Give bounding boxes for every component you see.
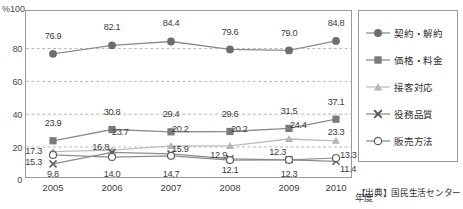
data-label-s1-2008: 79.6 <box>208 27 252 37</box>
x-tick-2008: 2008 <box>207 182 253 193</box>
data-label-s3-2005: 17.3 <box>8 146 42 156</box>
legend-item-ekimu-hinshitsu[interactable]: 役務品質 <box>359 100 457 127</box>
data-label-s3-2010: 23.3 <box>314 127 358 137</box>
data-label-s3-2008: 20.2 <box>231 124 271 134</box>
legend-label-ekimu-hinshitsu: 役務品質 <box>394 107 433 121</box>
legend-item-hanbai-houhou[interactable]: 販売方法 <box>359 127 457 154</box>
legend-item-kakaku-ryoukin[interactable]: 価格・料金 <box>359 46 457 73</box>
legend-label-hanbai-houhou: 販売方法 <box>394 134 433 148</box>
data-label-s2-2006: 30.8 <box>90 107 134 117</box>
legend-label-kakaku-ryoukin: 価格・料金 <box>394 53 443 67</box>
x-tick-2005: 2005 <box>30 182 76 193</box>
data-label-s2-2005: 23.9 <box>31 118 75 128</box>
legend: 契約・解約 価格・料金 接客対応 <box>358 10 458 162</box>
data-label-s1-2007: 84.4 <box>149 18 193 28</box>
x-tick-2009: 2009 <box>266 182 312 193</box>
filled-triangle-marker-icon <box>365 80 391 94</box>
x-tick-2010: 2010 <box>313 182 359 193</box>
data-label-s1-2010: 84.8 <box>314 18 358 28</box>
data-label-s5-2008: 12.1 <box>208 165 252 175</box>
data-label-s1-2005: 76.9 <box>31 31 75 41</box>
open-circle-marker-icon <box>365 134 391 148</box>
legend-label-keiyaku-kaiyaku: 契約・解約 <box>394 26 443 40</box>
data-label-s4-2008: 12.9 <box>187 150 227 160</box>
data-label-s3-2006: 23.7 <box>112 127 152 137</box>
x-tick-2006: 2006 <box>89 182 135 193</box>
data-label-s5-2006: 14.0 <box>90 169 134 179</box>
chart-root: %100 80 60 40 20 0 <box>0 0 463 209</box>
data-label-s1-2009: 79.0 <box>267 28 311 38</box>
data-label-s5-2005: 15.3 <box>8 157 42 167</box>
data-label-s5-2009: 12.3 <box>246 147 286 157</box>
source-note: 【出典】国民生活センター <box>357 186 461 198</box>
data-label-s3-2007: 20.2 <box>172 124 212 134</box>
data-label-s1-2006: 82.1 <box>90 22 134 32</box>
filled-square-marker-icon <box>365 53 391 67</box>
data-label-s4-2010: 11.4 <box>340 164 380 174</box>
data-label-s4-2005: 9.8 <box>31 169 75 179</box>
data-label-s2-2008: 29.6 <box>208 109 252 119</box>
data-label-s5-2007: 14.7 <box>149 169 193 179</box>
data-label-s2-2010: 37.1 <box>314 97 358 107</box>
series-line-keiyaku-kaiyaku <box>49 37 340 58</box>
data-label-s2-2007: 29.4 <box>149 109 193 119</box>
legend-item-sekkyaku-taiou[interactable]: 接客対応 <box>359 73 457 100</box>
filled-circle-marker-icon <box>365 26 391 40</box>
data-label-s4-2006: 16.8 <box>69 142 109 152</box>
legend-item-keiyaku-kaiyaku[interactable]: 契約・解約 <box>359 19 457 46</box>
legend-label-sekkyaku-taiou: 接客対応 <box>394 80 433 94</box>
data-label-s4-2009: 12.3 <box>267 169 311 179</box>
x-tick-2007: 2007 <box>148 182 194 193</box>
data-label-s2-2009: 31.5 <box>267 106 311 116</box>
cross-marker-icon <box>365 107 391 121</box>
